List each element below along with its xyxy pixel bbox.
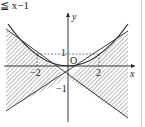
x-axis-label: x (130, 69, 134, 79)
tick-x-pos: 2 (96, 68, 101, 78)
right-border (141, 0, 142, 127)
tick-y-pos: 1 (61, 48, 66, 58)
origin-label: O (70, 56, 77, 66)
diagram: ≦ x−1 y x O 1 −1 −2 2 (0, 0, 145, 127)
y-axis-label: y (72, 12, 76, 22)
tick-x-neg: −2 (30, 68, 41, 78)
tick-y-neg: −1 (56, 84, 67, 94)
